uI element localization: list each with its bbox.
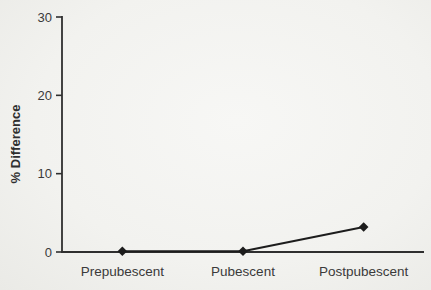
- y-tick-label-20: 20: [38, 88, 52, 103]
- y-tick-label-0: 0: [45, 245, 52, 260]
- data-point-prepubescent: [118, 246, 128, 256]
- scanned-chart-figure: 0 10 20 30 % Difference Prepubescent Pub…: [0, 0, 431, 290]
- category-label-pubescent: Pubescent: [211, 264, 275, 279]
- data-point-pubescent: [238, 246, 248, 256]
- y-axis-title: % Difference: [8, 105, 23, 184]
- data-point-postpubescent: [359, 222, 369, 232]
- category-label-postpubescent: Postpubescent: [319, 264, 409, 279]
- y-tick-label-10: 10: [38, 166, 52, 181]
- line-chart: 0 10 20 30 % Difference Prepubescent Pub…: [0, 0, 431, 290]
- y-tick-label-30: 30: [38, 10, 52, 25]
- category-label-prepubescent: Prepubescent: [81, 264, 165, 279]
